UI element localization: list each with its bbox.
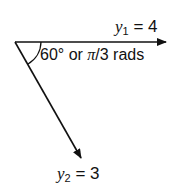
- vector-y2-value: 3: [90, 164, 99, 183]
- vector-y1-label: y1 = 4: [115, 18, 158, 37]
- angle-radians-text: /3 rads: [95, 46, 144, 63]
- vector-y2-equals: =: [71, 164, 90, 183]
- vector-y1-value: 4: [148, 17, 157, 36]
- vector-y2-label: y2 = 3: [57, 165, 100, 184]
- angle-degrees-text: 60° or: [40, 46, 87, 63]
- angle-label: 60° or π/3 rads: [40, 47, 144, 63]
- vector-y1-symbol: y: [115, 17, 123, 36]
- vector-y1-equals: =: [129, 17, 148, 36]
- vector-y2-symbol: y: [57, 164, 65, 183]
